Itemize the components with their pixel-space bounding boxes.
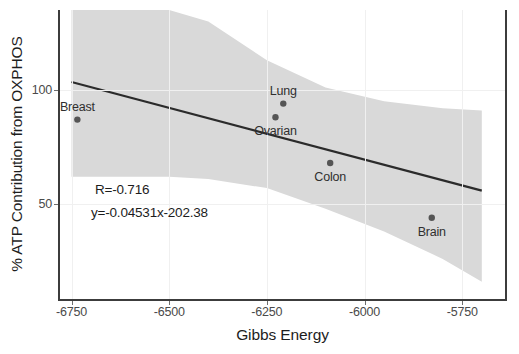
panel-axis-bottom: [58, 299, 507, 301]
chart-annotation-2: y=-0.04531x-202.38: [91, 205, 208, 220]
confidence-band: [72, 10, 482, 282]
point-label-lung: Lung: [270, 84, 297, 98]
plot-svg: [59, 10, 506, 300]
data-point-ovarian[interactable]: [272, 114, 278, 120]
x-axis-tick-label: -6000: [330, 305, 400, 319]
gridline-vertical: [462, 10, 463, 300]
point-label-breast: Breast: [60, 100, 95, 114]
data-point-lung[interactable]: [280, 100, 286, 106]
x-axis-title: Gibbs Energy: [59, 326, 506, 344]
y-axis-tick-mark: [54, 90, 58, 91]
plot-panel: [59, 10, 506, 300]
data-point-breast[interactable]: [74, 116, 80, 122]
y-axis-tick-labels: 50100: [6, 0, 52, 354]
gridline-vertical: [72, 10, 73, 300]
x-axis-tick-label: -6750: [37, 305, 107, 319]
y-axis-tick-mark: [54, 204, 58, 205]
x-axis-tick-label: -6500: [134, 305, 204, 319]
scatter-plot-figure: % ATP Contribution from OXPHOS 50100 Gib…: [0, 0, 519, 354]
gridline-vertical: [169, 10, 170, 300]
panel-axis-left: [58, 10, 60, 301]
y-axis-tick-label: 100: [8, 83, 52, 97]
data-point-colon[interactable]: [327, 160, 333, 166]
point-label-ovarian: Ovarian: [254, 124, 296, 138]
y-axis-tick-label: 50: [8, 197, 52, 211]
data-point-brain[interactable]: [429, 215, 435, 221]
chart-annotation-1: R=-0.716: [95, 182, 149, 197]
panel-axis-right: [505, 10, 507, 301]
point-label-colon: Colon: [314, 170, 346, 184]
x-axis-tick-label: -5750: [427, 305, 497, 319]
gridline-vertical: [365, 10, 366, 300]
point-label-brain: Brain: [418, 225, 446, 239]
x-axis-tick-label: -6250: [232, 305, 302, 319]
gridline-vertical: [267, 10, 268, 300]
